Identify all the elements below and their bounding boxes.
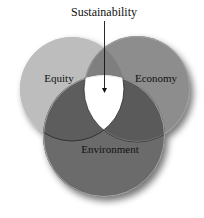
sustainability-label: Sustainability bbox=[71, 5, 137, 19]
venn-diagram: Sustainability Equity Economy Environmen… bbox=[0, 0, 204, 218]
environment-label: Environment bbox=[81, 143, 138, 155]
equity-label: Equity bbox=[44, 72, 74, 84]
economy-label: Economy bbox=[135, 72, 178, 84]
